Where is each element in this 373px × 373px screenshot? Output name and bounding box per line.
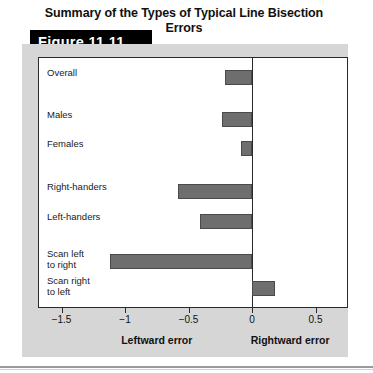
x-axis-tick xyxy=(125,308,126,313)
x-axis-tick xyxy=(252,308,253,313)
chart-bar xyxy=(252,281,275,296)
page-bottom-rule-secondary xyxy=(0,369,373,370)
zero-axis-line xyxy=(252,58,253,307)
x-axis-tick-label: 0 xyxy=(232,314,272,325)
leftward-error-caption: Leftward error xyxy=(97,334,217,346)
chart-plot-area: OverallMalesFemalesRight-handersLeft-han… xyxy=(38,57,348,308)
x-axis-tick xyxy=(316,308,317,313)
x-axis-tick xyxy=(62,308,63,313)
x-axis-tick xyxy=(189,308,190,313)
chart-bar xyxy=(225,70,252,85)
page-bottom-rule xyxy=(0,366,373,368)
category-label: Scan left to right xyxy=(47,249,84,270)
category-label: Left-handers xyxy=(47,212,100,223)
chart-bar xyxy=(178,184,252,199)
x-axis-tick-label: −0.5 xyxy=(169,314,209,325)
x-axis-tick-label: −1 xyxy=(105,314,145,325)
category-label: Scan right to left xyxy=(47,276,90,297)
rightward-error-caption: Rightward error xyxy=(230,334,350,346)
category-label: Males xyxy=(47,110,72,121)
x-axis-tick-label: −1.5 xyxy=(42,314,82,325)
chart-bar xyxy=(110,254,252,269)
category-label: Females xyxy=(47,139,83,150)
chart-plot-inner: OverallMalesFemalesRight-handersLeft-han… xyxy=(39,58,347,307)
category-label: Overall xyxy=(47,68,77,79)
category-label: Right-handers xyxy=(47,182,107,193)
x-axis-tick-label: 0.5 xyxy=(296,314,336,325)
chart-bar xyxy=(200,214,252,229)
figure-root: Summary of the Types of Typical Line Bis… xyxy=(0,0,373,373)
chart-bar xyxy=(241,141,252,156)
chart-bar xyxy=(222,112,252,127)
